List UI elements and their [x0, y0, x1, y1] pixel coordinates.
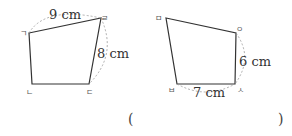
- answer-area[interactable]: ( ): [128, 111, 283, 127]
- left-quadrilateral: 9 cm 8 cm ㄱ ㄹ ㄷ ㄴ: [20, 7, 129, 97]
- vertex-label-o: ㅇ: [236, 25, 243, 34]
- measure-8cm: 8 cm: [97, 46, 129, 61]
- vertex-label-g: ㄱ: [20, 29, 27, 38]
- right-quad-outline: [166, 18, 236, 84]
- vertex-label-r: ㄹ: [101, 14, 108, 23]
- vertex-label-d: ㄷ: [86, 88, 93, 97]
- measure-9cm: 9 cm: [49, 7, 81, 22]
- diagram-canvas: 9 cm 8 cm ㄱ ㄹ ㄷ ㄴ 6 cm 7 cm ㅁ ㅇ ㅅ ㅂ ( ): [0, 0, 292, 136]
- vertex-label-m: ㅁ: [155, 14, 162, 23]
- measure-6cm: 6 cm: [239, 54, 271, 69]
- left-quad-outline: [29, 18, 101, 84]
- vertex-label-s: ㅅ: [237, 86, 244, 95]
- close-paren: ): [278, 111, 283, 127]
- measure-7cm: 7 cm: [193, 85, 225, 100]
- right-quadrilateral: 6 cm 7 cm ㅁ ㅇ ㅅ ㅂ: [155, 14, 271, 100]
- vertex-label-b: ㅂ: [168, 86, 175, 95]
- open-paren: (: [128, 111, 133, 127]
- vertex-label-n: ㄴ: [26, 88, 33, 97]
